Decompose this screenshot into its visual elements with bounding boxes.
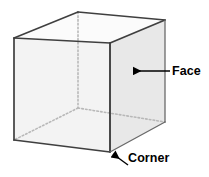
label-corner: Corner [128,152,170,165]
cube-face-front [14,38,110,152]
corner-annotation-arrow [113,154,128,165]
cube-illustration [0,0,209,177]
label-face: Face [172,65,201,78]
cube-diagram: Face Corner [0,0,209,177]
